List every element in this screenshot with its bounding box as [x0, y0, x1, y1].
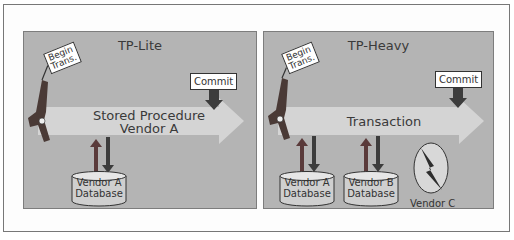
commit-down-arrow-icon: [205, 90, 225, 112]
db-io-arrows-icon: [294, 136, 324, 176]
db-io-arrows-icon: [358, 136, 388, 176]
vendor-c-label: Vendor C: [410, 198, 455, 209]
panel-tp-lite: TP-Lite Stored Procedure Vendor A Begin …: [23, 31, 257, 209]
commit-label: Commit: [190, 73, 237, 90]
database-label: Vendor A Database: [70, 177, 128, 199]
arrow-label: Transaction: [304, 115, 464, 128]
arrow-label-line2: Vendor A: [64, 122, 234, 135]
db-line2: Database: [342, 188, 400, 199]
database-label-vendor-b: Vendor B Database: [342, 177, 400, 199]
db-line1: Vendor A: [278, 177, 336, 188]
panel-tp-heavy: TP-Heavy Transaction Begin Trans. Commit…: [263, 31, 494, 209]
lightning-bolt-icon: [412, 142, 452, 198]
database-label-vendor-a: Vendor A Database: [278, 177, 336, 199]
db-line2: Database: [70, 188, 128, 199]
commit-down-arrow-icon: [449, 88, 469, 110]
db-line1: Vendor B: [342, 177, 400, 188]
db-line1: Vendor A: [70, 177, 128, 188]
commit-label: Commit: [435, 71, 482, 88]
db-line2: Database: [278, 188, 336, 199]
